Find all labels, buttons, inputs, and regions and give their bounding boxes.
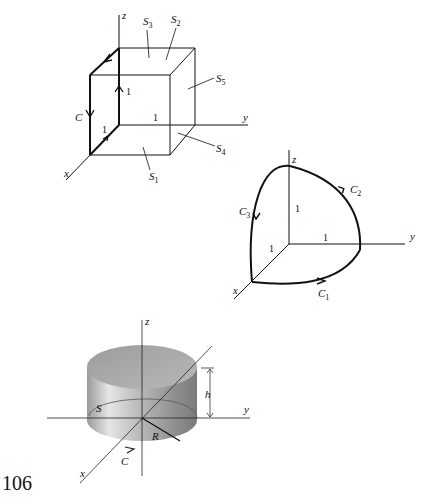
arrow-icon <box>253 213 260 219</box>
surface-s-label: S <box>96 402 102 414</box>
curve-c1 <box>252 250 360 284</box>
surface-s4-label: S4 <box>216 142 226 157</box>
curve-c2-label: C2 <box>350 183 361 198</box>
x-unit-label: 1 <box>102 124 107 135</box>
surface-s5-label: S5 <box>216 72 226 87</box>
x-axis-label: x <box>232 284 238 296</box>
y-unit-label: 1 <box>153 112 158 123</box>
height-label: h <box>205 388 211 400</box>
page-number: 106 <box>2 472 32 495</box>
curve-c3 <box>251 166 290 282</box>
x-axis-label: x <box>63 167 69 179</box>
z-axis-label: z <box>121 9 127 21</box>
z-unit-label: 1 <box>126 86 131 97</box>
cube-curve-c <box>90 48 119 155</box>
figure-canvas: z y x S3 S2 S5 S4 S1 C 1 1 1 z y x C2 C3… <box>0 0 434 502</box>
y-unit-label: 1 <box>323 232 328 243</box>
curve-c-label: C <box>121 455 129 467</box>
surface-s1-label: S1 <box>149 170 159 185</box>
z-axis-label: z <box>291 153 297 165</box>
surface-s3-label: S3 <box>143 15 153 30</box>
z-axis-label: z <box>144 315 150 327</box>
cylinder-figure: z y x S C R h <box>47 315 250 483</box>
y-axis-label: y <box>243 403 249 415</box>
sphere-x-axis <box>234 244 289 299</box>
radius-label: R <box>151 430 159 442</box>
z-unit-label: 1 <box>295 203 300 214</box>
curve-c-label: C <box>75 111 83 123</box>
cube-figure: z y x S3 S2 S5 S4 S1 C 1 1 1 <box>63 9 248 185</box>
leader-lines <box>143 28 215 170</box>
curve-c3-label: C3 <box>239 205 250 220</box>
curve-c1-label: C1 <box>318 287 329 302</box>
x-axis-label: x <box>79 467 85 479</box>
y-axis-label: y <box>409 230 415 242</box>
x-unit-label: 1 <box>269 243 274 254</box>
arrow-icon <box>125 447 134 453</box>
sphere-octant-figure: z y x C2 C3 C1 1 1 1 <box>232 150 415 302</box>
y-axis-label: y <box>242 111 248 123</box>
surface-s2-label: S2 <box>171 13 181 28</box>
